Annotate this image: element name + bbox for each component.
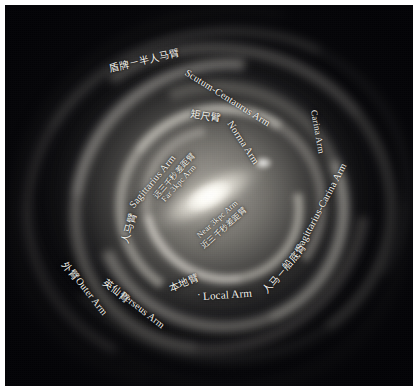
galaxy-image: 盾牌－半人马臂 Scutum-Centaurus Arm Carina Arm … [5,5,413,386]
image-frame: 盾牌－半人马臂 Scutum-Centaurus Arm Carina Arm … [0,0,419,392]
local-arm-bullet-icon: · [197,288,201,300]
